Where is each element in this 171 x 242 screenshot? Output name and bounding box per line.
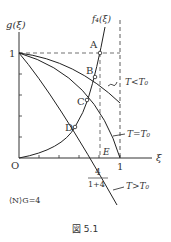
origin-label: O	[11, 160, 19, 171]
f4-label: f₄(ξ)	[91, 14, 111, 24]
point-E-label: E	[102, 147, 110, 157]
leader-T-less	[108, 82, 117, 86]
leader-T-equal	[113, 134, 125, 136]
x-axis-label: ξ	[156, 152, 162, 163]
leader-T-greater	[113, 187, 124, 190]
x-tick-one: 1	[117, 161, 123, 172]
point-B-label: B	[86, 65, 93, 76]
y-axis-label: g(ξ)	[6, 19, 26, 30]
parameter-note: ⟨N⟩G=4	[9, 196, 40, 205]
label-T-less: T<T₀	[125, 77, 149, 87]
label-T-equal: T=T₀	[127, 129, 151, 139]
figure-5-1: g(ξ) f₄(ξ) 1 O 1 ξ A B C D E T<T₀ T=T₀ T…	[0, 0, 171, 242]
fraction-numerator: 4	[95, 167, 101, 177]
point-C-label: C	[77, 96, 85, 107]
figure-caption: 図 5.1	[72, 224, 98, 234]
point-A-label: A	[89, 39, 98, 50]
label-T-greater: T>T₀	[126, 181, 150, 191]
fraction-denominator: 1+4	[88, 180, 105, 189]
point-D-label: D	[65, 122, 73, 133]
curve-T-equal-T0	[19, 53, 120, 158]
y-tick-one: 1	[9, 48, 15, 59]
